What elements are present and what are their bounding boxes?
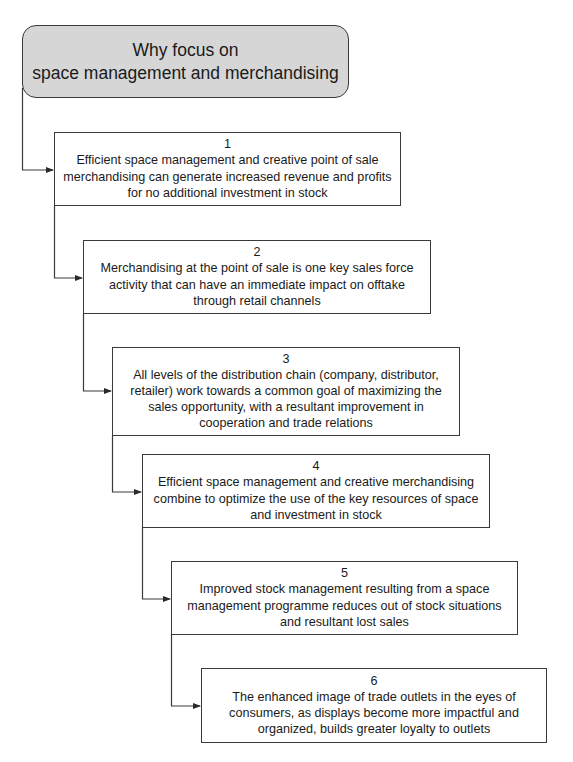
step-number: 4 [151,458,481,474]
connector-header-to-step-1 [23,88,54,170]
step-text: Improved stock management resulting from… [180,581,509,630]
step-text: Merchandising at the point of sale is on… [92,260,422,309]
step-box-6: 6 The enhanced image of trade outlets in… [201,668,547,743]
step-text: Efficient space management and creative … [63,152,392,201]
connector-step-5-to-step-6 [172,635,201,706]
step-text: The enhanced image of trade outlets in t… [210,689,538,738]
step-text: Efficient space management and creative … [151,474,481,523]
step-box-4: 4 Efficient space management and creativ… [142,454,490,528]
diagram-title-line-1: Why focus on [132,39,238,62]
connector-step-1-to-step-2 [55,206,83,278]
step-box-1: 1 Efficient space management and creativ… [54,132,401,206]
step-number: 5 [180,565,509,581]
step-number: 6 [210,673,538,689]
connector-step-4-to-step-5 [143,528,171,599]
connector-step-2-to-step-3 [84,314,112,391]
step-box-5: 5 Improved stock management resulting fr… [171,561,518,635]
step-number: 2 [92,244,422,260]
step-number: 3 [121,351,451,367]
diagram-title-line-2: space management and merchandising [32,62,338,85]
step-box-2: 2 Merchandising at the point of sale is … [83,240,431,314]
step-text: All levels of the distribution chain (co… [121,367,451,432]
step-number: 1 [63,136,392,152]
diagram-title-box: Why focus on space management and mercha… [22,25,349,98]
step-box-3: 3 All levels of the distribution chain (… [112,347,460,436]
connector-step-3-to-step-4 [113,436,142,492]
